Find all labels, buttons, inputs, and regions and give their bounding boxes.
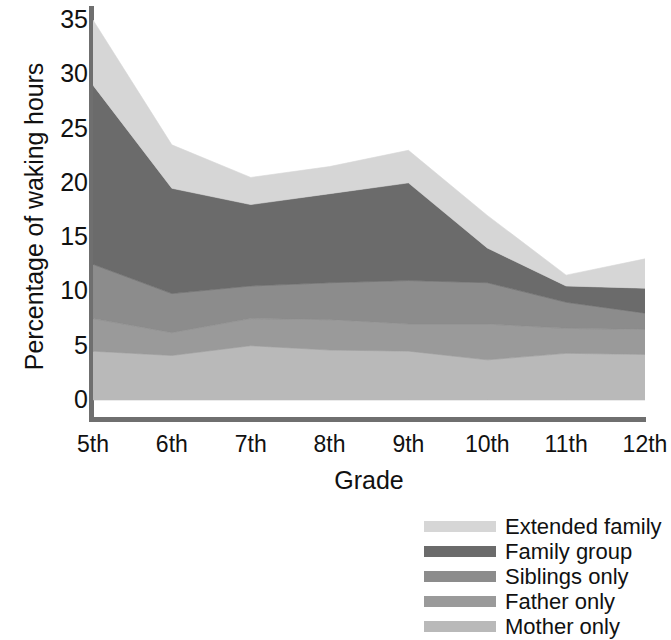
- legend-swatch-icon: [424, 596, 496, 607]
- y-axis-tick-label: 10: [36, 278, 88, 303]
- legend-item: Extended family: [424, 514, 655, 539]
- x-axis-tick-label: 10th: [442, 432, 532, 457]
- legend-item: Mother only: [424, 614, 655, 639]
- stacked-area-plot: [93, 0, 645, 420]
- legend-item-label: Family group: [505, 541, 632, 563]
- x-axis-tick-label: 7th: [206, 432, 296, 457]
- y-axis-tick-label: 5: [36, 333, 88, 358]
- x-axis-tick-label: 8th: [285, 432, 375, 457]
- x-axis-tick-labels: 5th6th7th8th9th10th11th12th: [93, 432, 645, 464]
- chart-legend: Extended familyFamily groupSiblings only…: [424, 514, 655, 639]
- y-axis-tick-label: 30: [36, 61, 88, 86]
- legend-swatch-icon: [424, 521, 496, 532]
- x-axis-line: [89, 417, 646, 422]
- legend-item-label: Siblings only: [505, 566, 629, 588]
- legend-swatch-icon: [424, 571, 496, 582]
- y-axis-tick-labels: 35302520151050: [36, 0, 88, 420]
- x-axis-tick-label: 12th: [600, 432, 671, 457]
- legend-item-label: Mother only: [505, 616, 620, 638]
- legend-item-label: Father only: [505, 591, 615, 613]
- y-axis-tick-label: 15: [36, 224, 88, 249]
- y-axis-tick-label: 25: [36, 116, 88, 141]
- x-axis-tick-label: 9th: [363, 432, 453, 457]
- legend-item-label: Extended family: [505, 516, 662, 538]
- plot-area: [93, 0, 645, 420]
- x-axis-tick-label: 6th: [127, 432, 217, 457]
- x-axis-tick-label: 11th: [521, 432, 611, 457]
- y-axis-tick-label: 35: [36, 7, 88, 32]
- legend-item: Siblings only: [424, 564, 655, 589]
- legend-item: Father only: [424, 589, 655, 614]
- legend-swatch-icon: [424, 621, 496, 632]
- x-axis-tick-label: 5th: [48, 432, 138, 457]
- legend-swatch-icon: [424, 546, 496, 557]
- legend-item: Family group: [424, 539, 655, 564]
- y-axis-tick-label: 20: [36, 170, 88, 195]
- x-axis-title: Grade: [93, 466, 645, 495]
- y-axis-tick-label: 0: [36, 387, 88, 412]
